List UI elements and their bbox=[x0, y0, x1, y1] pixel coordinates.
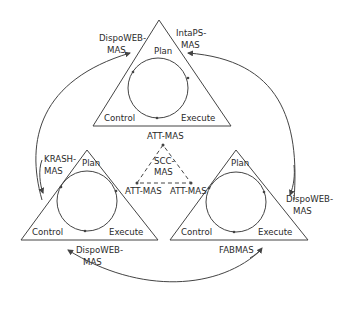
cycle-dot bbox=[233, 231, 236, 234]
scc-label-line2: MAS bbox=[154, 167, 173, 177]
label-dispoweb-top-left-2: MAS bbox=[107, 45, 126, 55]
label-dispoweb-bottom: DispoWEB- bbox=[76, 245, 123, 255]
att-node bbox=[136, 182, 139, 185]
cycle-dot bbox=[187, 77, 190, 80]
mas-cycle-diagram: Plan Control Execute Plan Control Execut… bbox=[0, 0, 347, 310]
cycle-dot bbox=[60, 186, 63, 189]
cycle-dot bbox=[84, 230, 87, 233]
att-node bbox=[190, 182, 193, 185]
phase-plan: Plan bbox=[154, 46, 172, 56]
label-dispoweb-right-2: MAS bbox=[293, 206, 312, 216]
arc-right-dispoweb-arrow bbox=[290, 165, 294, 195]
label-dispoweb-top-left: DispoWEB- bbox=[99, 33, 146, 43]
scc-mas-group: SCC- MAS ATT-MAS ATT-MAS ATT-MAS bbox=[125, 131, 207, 196]
cycle-dot bbox=[263, 191, 266, 194]
label-intaps-top-right-2: MAS bbox=[181, 40, 200, 50]
phase-control: Control bbox=[32, 227, 63, 237]
cycle-circle-bottom-right bbox=[206, 172, 266, 232]
att-mas-right: ATT-MAS bbox=[170, 186, 207, 196]
label-dispoweb-right: DispoWEB- bbox=[286, 194, 333, 204]
cycle-circle-top bbox=[128, 58, 188, 118]
phase-plan: Plan bbox=[231, 158, 249, 168]
cycle-circle-bottom-left bbox=[57, 171, 117, 231]
phase-execute: Execute bbox=[181, 113, 215, 123]
label-dispoweb-bottom-2: MAS bbox=[83, 257, 102, 267]
att-mas-left: ATT-MAS bbox=[125, 186, 162, 196]
phase-execute: Execute bbox=[258, 227, 292, 237]
phase-control: Control bbox=[104, 113, 135, 123]
label-krash-left-2: MAS bbox=[44, 166, 63, 176]
arc-krash-arrow bbox=[40, 160, 43, 193]
cycle-dot bbox=[156, 117, 159, 120]
phase-execute: Execute bbox=[109, 227, 143, 237]
scc-label-line1: SCC- bbox=[154, 156, 175, 166]
label-krash-left: KRASH- bbox=[44, 154, 76, 164]
label-fabmas: FABMAS bbox=[219, 245, 254, 255]
att-node bbox=[162, 144, 165, 147]
phase-control: Control bbox=[181, 227, 212, 237]
label-intaps-top-right: IntaPS- bbox=[176, 28, 206, 38]
cycle-dot bbox=[208, 187, 211, 190]
cycle-dot bbox=[132, 71, 135, 74]
cycle-dot bbox=[115, 190, 118, 193]
phase-plan: Plan bbox=[82, 158, 100, 168]
att-mas-top: ATT-MAS bbox=[147, 131, 184, 141]
